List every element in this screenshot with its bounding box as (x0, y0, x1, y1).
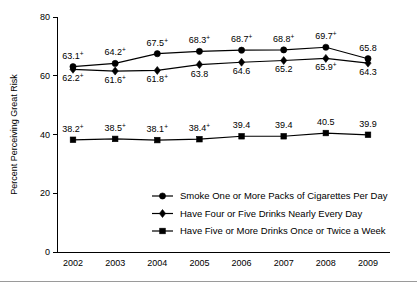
data-point-marker (112, 136, 118, 142)
x-axis-tick-label: 2009 (358, 258, 378, 268)
data-point-label: 63.8 (191, 69, 209, 79)
data-point-marker (238, 47, 244, 53)
legend-item-circle: Smoke One or More Packs of Cigarettes Pe… (152, 190, 388, 201)
y-axis-tick-label: 40 (40, 130, 50, 140)
data-point-label: 65.2 (275, 64, 293, 74)
legend-label: Smoke One or More Packs of Cigarettes Pe… (180, 190, 388, 201)
legend-item-diamond: Have Four or Five Drinks Nearly Every Da… (152, 208, 362, 219)
data-point-label: 39.9 (359, 119, 377, 129)
x-axis-tick-label: 2007 (274, 258, 294, 268)
data-point-marker (154, 51, 160, 57)
data-point-marker (323, 130, 329, 136)
data-point-marker (159, 193, 165, 199)
data-point-label: 64.3 (359, 67, 377, 77)
data-point-label: 38.5+ (104, 121, 126, 133)
chart-legend: Smoke One or More Packs of Cigarettes Pe… (152, 190, 388, 236)
y-axis-tick-label: 20 (40, 188, 50, 198)
data-point-marker (238, 58, 244, 66)
data-point-marker (197, 136, 203, 142)
data-point-marker (323, 44, 329, 50)
data-point-marker (281, 56, 287, 64)
data-point-marker (159, 210, 165, 218)
data-point-marker (196, 48, 202, 54)
legend-label: Have Four or Five Drinks Nearly Every Da… (180, 208, 362, 219)
data-point-marker (323, 54, 329, 62)
legend-label: Have Five or More Drinks Once or Twice a… (180, 225, 386, 236)
x-axis-tick-label: 2004 (147, 258, 167, 268)
data-point-label: 61.6+ (104, 74, 126, 86)
data-point-label: 67.5+ (147, 36, 169, 48)
data-point-marker (70, 137, 76, 143)
x-axis-tick-label: 2002 (63, 258, 83, 268)
data-point-label: 38.2+ (62, 122, 84, 134)
y-axis-tick-label: 0 (45, 247, 50, 257)
x-axis-tick-label: 2006 (232, 258, 252, 268)
x-axis-tick-label: 2003 (105, 258, 125, 268)
data-point-label: 64.6 (233, 66, 251, 76)
data-point-label: 65.8 (359, 43, 377, 53)
data-point-label: 39.4 (233, 120, 251, 130)
data-point-label: 63.1+ (62, 49, 84, 61)
data-point-marker (281, 47, 287, 53)
x-axis-tick-label: 2008 (316, 258, 336, 268)
data-point-label: 39.4 (275, 120, 293, 130)
y-axis-tick-label: 60 (40, 71, 50, 81)
data-point-label: 65.9+ (315, 61, 337, 73)
legend-item-square: Have Five or More Drinks Once or Twice a… (152, 225, 386, 236)
data-point-marker (281, 133, 287, 139)
data-point-marker (160, 228, 166, 234)
data-point-marker (154, 137, 160, 143)
y-axis-tick-label: 80 (40, 12, 50, 22)
data-labels: 63.1+64.2+67.5+68.3+68.7+68.8+69.7+65.86… (62, 30, 376, 134)
x-axis-tick-label: 2005 (189, 258, 209, 268)
data-point-marker (239, 133, 245, 139)
data-point-label: 68.8+ (273, 32, 295, 44)
data-point-label: 40.5 (317, 117, 335, 127)
data-point-label: 38.4+ (189, 122, 211, 134)
y-axis-title: Percent Perceiving Great Risk (9, 74, 19, 195)
data-point-marker (196, 61, 202, 69)
line-chart: 0204060802002200320042005200620072008200… (0, 0, 417, 287)
data-point-label: 62.2+ (62, 72, 84, 84)
data-point-label: 68.3+ (189, 34, 211, 46)
data-point-marker (112, 67, 118, 75)
chart-container: 0204060802002200320042005200620072008200… (0, 0, 417, 287)
data-point-label: 64.2+ (104, 46, 126, 58)
data-point-label: 69.7+ (315, 30, 337, 42)
data-point-label: 38.1+ (147, 123, 169, 135)
data-point-label: 68.7+ (231, 33, 253, 45)
data-point-marker (154, 66, 160, 74)
data-point-marker (365, 132, 371, 138)
data-point-marker (112, 60, 118, 66)
data-point-label: 61.8+ (147, 73, 169, 85)
